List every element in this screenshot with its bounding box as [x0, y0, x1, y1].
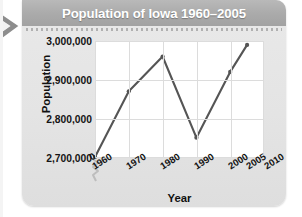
gridline-horizontal	[95, 80, 264, 81]
x-axis-title: Year	[95, 192, 264, 204]
chart-page: Population of Iowa 1960–2005 Population …	[0, 0, 302, 217]
chart-body: Population 3,000,000 2,900,000 2,800,000…	[22, 26, 286, 206]
gridline-vertical	[197, 41, 198, 158]
x-tick-label: 2010	[262, 151, 286, 172]
gridline-vertical	[263, 41, 264, 158]
plot-area	[95, 41, 264, 158]
gridline-horizontal	[95, 41, 264, 42]
chevron-right-icon	[0, 0, 52, 66]
data-series-line	[95, 41, 264, 158]
y-tick-label: 2,800,000	[24, 114, 92, 125]
title-banner: Population of Iowa 1960–2005	[22, 0, 286, 26]
chart-title: Population of Iowa 1960–2005	[22, 0, 286, 26]
y-tick-label: 2,900,000	[24, 75, 92, 86]
gridline-vertical	[95, 41, 96, 158]
gridline-vertical	[129, 41, 130, 158]
x-axis-tick-labels: 1960 1970 1980 1990 2000 2005 2010	[22, 162, 286, 196]
gridline-vertical	[163, 41, 164, 158]
gridline-vertical	[231, 41, 232, 158]
gridline-horizontal	[95, 119, 264, 120]
